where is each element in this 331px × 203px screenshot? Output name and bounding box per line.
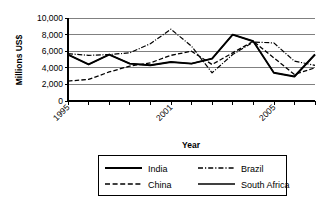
legend-item-brazil[interactable]: Brazil [198, 164, 264, 174]
y-axis-title: Millions US$ [14, 34, 24, 85]
x-axis-tick-labels: 1995 2001 2005 [51, 102, 278, 123]
series-line-china [68, 41, 315, 81]
chart-canvas: 10,000 8,000 6,000 4,000 2,000 0 Million… [0, 0, 331, 203]
legend-item-south-africa[interactable]: South Africa [198, 180, 290, 190]
legend-label-china: China [148, 180, 172, 190]
y-tick-label: 8,000 [42, 30, 64, 40]
series-line-india [68, 35, 315, 77]
legend-label-brazil: Brazil [241, 164, 264, 174]
y-tick-label: 6,000 [42, 46, 64, 56]
legend-label-south-africa: South Africa [241, 180, 290, 190]
y-tick-label: 10,000 [37, 13, 63, 23]
x-axis-title: Year [182, 140, 201, 150]
legend-item-china[interactable]: China [105, 180, 172, 190]
legend-label-india: India [148, 164, 168, 174]
y-axis-title-group: Millions US$ [14, 34, 24, 85]
series-plot-area [68, 29, 315, 81]
legend-item-india[interactable]: India [105, 164, 168, 174]
x-tick-label-2005: 2005 [257, 102, 278, 123]
x-tick-label-2001: 2001 [154, 102, 175, 123]
chart-legend: India Brazil China South Africa [98, 155, 290, 195]
y-axis-tick-labels: 10,000 8,000 6,000 4,000 2,000 0 [37, 13, 63, 106]
y-tick-label: 2,000 [42, 79, 64, 89]
y-tick-label: 4,000 [42, 63, 64, 73]
x-tick-label-1995: 1995 [51, 102, 72, 123]
line-chart: 10,000 8,000 6,000 4,000 2,000 0 Million… [0, 0, 331, 203]
axes [68, 18, 315, 101]
